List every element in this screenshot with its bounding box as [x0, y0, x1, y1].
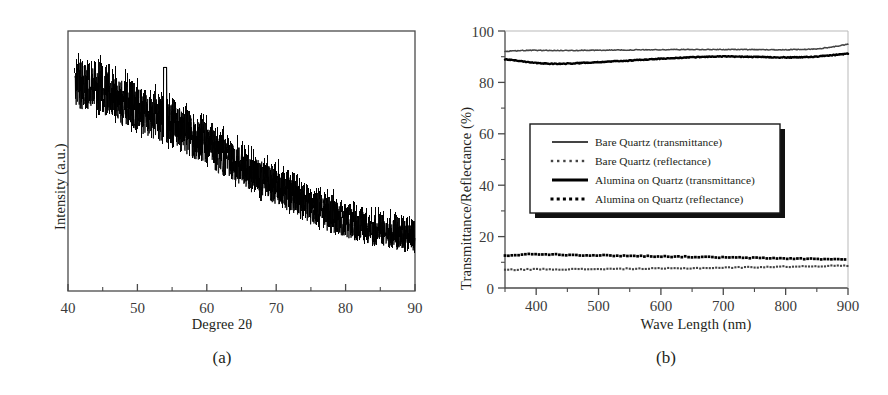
panel-b-curve: [505, 44, 848, 51]
panel-b-y-tick-label: 40: [479, 178, 494, 194]
panel-b-x-tick-label: 400: [525, 298, 548, 314]
panel-a: 405060708090 Intensity (a.u.) Degree 2θ …: [0, 0, 444, 395]
panel-a-x-tick-label: 40: [61, 300, 76, 316]
legend-swatch-dot: [582, 160, 584, 162]
panel-a-y-axis-label: Intensity (a.u.): [52, 143, 69, 230]
panel-b-curve: [505, 53, 848, 64]
legend-entry-label: Alumina on Quartz (transmittance): [595, 174, 755, 187]
legend-swatch-dot: [551, 198, 554, 201]
legend-swatch-dot: [563, 160, 565, 162]
legend-entry-label: Bare Quartz (transmittance): [595, 136, 722, 149]
panel-b-y-tick-label: 60: [479, 126, 494, 142]
legend-swatch-dot: [569, 160, 571, 162]
legend-swatch-dot: [576, 160, 578, 162]
panel-b-x-tick-label: 800: [774, 298, 797, 314]
panel-a-x-axis-label-text: Degree 2θ: [192, 316, 253, 332]
panel-a-x-tick-label: 90: [408, 300, 423, 316]
panel-b-curve-dotted: [504, 264, 849, 271]
panel-a-x-ticks: 405060708090: [61, 284, 423, 316]
panel-b-x-axis-label-text: Wave Length (nm): [641, 316, 752, 332]
legend-entry-label: Alumina on Quartz (reflectance): [595, 193, 744, 206]
transmittance-reflectance-plot: 020406080100400500600700800900Bare Quart…: [444, 0, 888, 395]
panel-b-x-tick-label: 900: [837, 298, 860, 314]
panel-a-x-tick-label: 60: [199, 300, 214, 316]
legend-swatch-dot: [551, 160, 553, 162]
panel-b-x-axis-label: Wave Length (nm): [504, 316, 888, 333]
panel-b-x-ticks: 400500600700800900: [505, 288, 859, 314]
figure-container: 405060708090 Intensity (a.u.) Degree 2θ …: [0, 0, 888, 395]
legend-swatch-dot: [563, 198, 566, 201]
panel-a-xrd-trace: [75, 53, 415, 254]
legend-swatch-dot: [557, 160, 559, 162]
panel-a-caption: (a): [0, 348, 444, 368]
panel-b-curve-dotted: [504, 253, 847, 261]
legend-swatch-dot: [569, 198, 572, 201]
legend-swatch-dot: [557, 198, 560, 201]
panel-a-x-tick-label: 80: [338, 300, 353, 316]
panel-b-x-tick-label: 600: [650, 298, 673, 314]
panel-a-x-tick-label: 70: [269, 300, 284, 316]
panel-b-y-tick-label: 0: [487, 281, 495, 297]
panel-b-x-tick-label: 700: [712, 298, 735, 314]
panel-b-y-ticks: 020406080100: [472, 24, 506, 297]
panel-b-legend[interactable]: Bare Quartz (transmittance)Bare Quartz (…: [530, 124, 785, 218]
panel-b: 020406080100400500600700800900Bare Quart…: [444, 0, 888, 395]
panel-b-y-axis-label: Transmittance/Reflectance (%): [458, 107, 475, 290]
panel-b-y-tick-label: 80: [479, 75, 494, 91]
legend-swatch-dot: [582, 198, 585, 201]
panel-a-x-axis-label: Degree 2θ: [0, 316, 444, 333]
panel-b-x-tick-label: 500: [587, 298, 610, 314]
panel-b-y-tick-label: 20: [479, 229, 494, 245]
panel-b-caption: (b): [474, 348, 858, 368]
legend-entry-label: Bare Quartz (reflectance): [595, 155, 711, 168]
panel-b-y-tick-label: 100: [472, 24, 495, 40]
panel-a-x-tick-label: 50: [130, 300, 145, 316]
legend-swatch-dot: [575, 198, 578, 201]
